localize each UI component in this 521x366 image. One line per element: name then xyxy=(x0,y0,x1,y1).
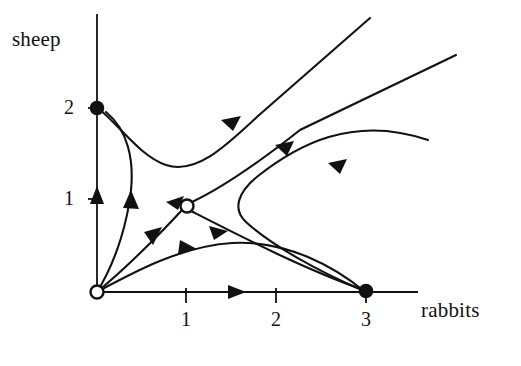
arrow-x-axis-right xyxy=(228,285,246,299)
trajectories-group xyxy=(97,18,456,292)
trajectory-origin-shallow-to-rabbit-node xyxy=(97,243,364,292)
fixed-point-coexistence-saddle-open-circle xyxy=(181,200,194,213)
arrow-sheep-separatrix-outer xyxy=(221,116,241,131)
x-axis-label-rabbits: rabbits xyxy=(421,298,480,323)
x-tick-label-2: 2 xyxy=(265,308,287,331)
arrow-lower-incoming xyxy=(328,159,347,174)
x-tick-label-3: 3 xyxy=(355,308,377,331)
arrow-origin-to-saddle xyxy=(144,227,162,245)
phase-portrait-figure: sheep rabbits 2 1 1 2 3 xyxy=(0,0,521,366)
fixed-point-sheep-only-filled-dot xyxy=(91,102,104,115)
y-axis-label-sheep: sheep xyxy=(12,27,61,52)
flow-arrows-group xyxy=(90,116,347,299)
arrow-y-axis-up xyxy=(90,186,104,204)
trajectory-origin-to-saddle xyxy=(97,208,184,292)
arrow-origin-steep-up xyxy=(123,190,139,209)
trajectory-sheep-node-stable-separatrix xyxy=(99,18,370,167)
fixed-point-origin-open-circle xyxy=(91,286,104,299)
y-tick-label-1: 1 xyxy=(58,187,80,210)
fixed-point-rabbits-only-filled-dot xyxy=(360,285,373,298)
y-tick-label-2: 2 xyxy=(58,96,80,119)
x-tick-label-1: 1 xyxy=(175,308,197,331)
